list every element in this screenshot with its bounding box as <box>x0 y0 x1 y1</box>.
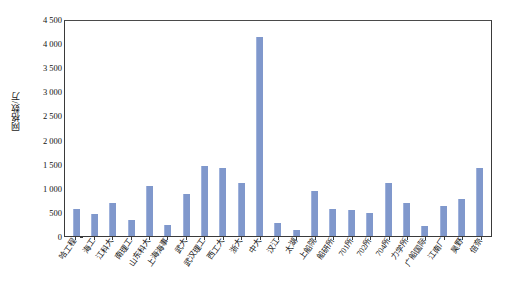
bar[interactable] <box>366 213 373 236</box>
bar[interactable] <box>201 166 208 236</box>
bar[interactable] <box>421 226 428 236</box>
bar-slot <box>269 21 287 236</box>
x-tick-label: 海工 <box>81 236 98 254</box>
bar[interactable] <box>476 168 483 236</box>
x-tick-label: 船研所 <box>316 236 337 261</box>
bar-slot <box>104 21 122 236</box>
x-tick-label: 上船院 <box>297 236 318 261</box>
bar[interactable] <box>73 209 80 236</box>
y-tick-label: 2 500 <box>22 112 62 120</box>
bar[interactable] <box>403 203 410 236</box>
x-tick-label: 江南厂 <box>426 236 447 261</box>
x-tick-label: 武大 <box>173 236 190 254</box>
bar[interactable] <box>311 191 318 236</box>
y-tick-label: 1 000 <box>22 185 62 193</box>
bar[interactable] <box>91 214 98 236</box>
x-tick-label: 西工大 <box>205 236 226 261</box>
x-axis-tick-labels: 哈工程海工江科大南理工山东科大上海海事武大武汉理工西工大浙大中大汉江太湖上船院船… <box>64 239 492 299</box>
y-tick-label: 500 <box>22 209 62 217</box>
bar-slot <box>159 21 177 236</box>
bar-slot <box>85 21 103 236</box>
y-tick-label: 4 000 <box>22 40 62 48</box>
bar-slot <box>342 21 360 236</box>
y-tick-mark <box>80 237 83 238</box>
y-axis-tick-labels: 4 5004 0003 5003 0002 5002 0001 5001 000… <box>18 20 62 237</box>
bar[interactable] <box>238 183 245 236</box>
bar[interactable] <box>219 168 226 236</box>
x-tick-label: 太湖 <box>284 236 301 254</box>
bar-slot <box>122 21 140 236</box>
bar[interactable] <box>183 194 190 236</box>
bar-slot <box>471 21 489 236</box>
bar[interactable] <box>146 186 153 236</box>
bar-slot <box>305 21 323 236</box>
plot-area <box>64 20 492 237</box>
x-tick-label: 中大 <box>247 236 264 254</box>
bar-slot <box>416 21 434 236</box>
y-tick-label: 3 500 <box>22 64 62 72</box>
bar-chart-figure: 网格数/万 4 5004 0003 5003 0002 5002 0001 50… <box>0 0 508 299</box>
bar-slot <box>434 21 452 236</box>
bar-slot <box>397 21 415 236</box>
x-tick-label: 浙大 <box>228 236 245 254</box>
bar-slot <box>214 21 232 236</box>
bar-slot <box>361 21 379 236</box>
bar[interactable] <box>458 199 465 236</box>
bar[interactable] <box>128 220 135 236</box>
y-tick-label: 2 000 <box>22 137 62 145</box>
bar[interactable] <box>164 225 171 236</box>
bar[interactable] <box>274 223 281 236</box>
bar[interactable] <box>293 230 300 236</box>
bar-slot <box>250 21 268 236</box>
bar[interactable] <box>440 206 447 236</box>
bar-slot <box>452 21 470 236</box>
bar[interactable] <box>256 37 263 236</box>
bar[interactable] <box>329 209 336 236</box>
bar-slot <box>177 21 195 236</box>
bar-slot <box>379 21 397 236</box>
x-tick-label: 702所 <box>355 236 374 258</box>
x-tick-label: 昊野 <box>449 236 466 254</box>
y-tick-label: 0 <box>22 233 62 241</box>
bar-slot <box>140 21 158 236</box>
x-tick-label: 江科大 <box>95 236 116 261</box>
bar[interactable] <box>109 203 116 236</box>
bar-slot <box>67 21 85 236</box>
y-tick-label: 3 000 <box>22 88 62 96</box>
bar-slot <box>287 21 305 236</box>
bar-series <box>65 21 491 236</box>
bar-slot <box>195 21 213 236</box>
bar[interactable] <box>385 183 392 236</box>
bar[interactable] <box>348 210 355 236</box>
x-tick-label: 汉江 <box>265 236 282 254</box>
x-tick-label: 倍奈 <box>468 236 485 254</box>
bar-slot <box>324 21 342 236</box>
y-tick-label: 4 500 <box>22 16 62 24</box>
y-tick-label: 1 500 <box>22 161 62 169</box>
bar-slot <box>232 21 250 236</box>
x-tick-label: 701所 <box>337 236 356 258</box>
